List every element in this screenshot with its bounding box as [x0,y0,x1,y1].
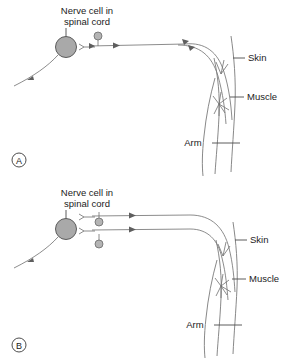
panel-a-vesicle-icon [94,32,102,40]
panel-b-vesicle-icon-2 [95,240,103,248]
panel-a-sensory-axon-main [90,44,185,46]
panel-b-branch-muscle [190,229,228,300]
panel-a-arrowhead-icon-1 [89,43,95,49]
panel-a-arm-outline-left [202,78,215,176]
panel-a-nerve-branch-muscle-lower-icon [214,104,229,116]
panel-b-nerve-cell-label-line2: spinal cord [64,198,110,209]
panel-b-vesicle-icon-1 [95,218,103,226]
panel-b-nerve-cell-label-line1: Nerve cell in [61,187,113,198]
panel-a-skin-label: Skin [248,52,266,63]
panel-b: Nerve cell in spinal cord [12,187,279,358]
panel-b-arrowhead-icon-1 [129,213,136,219]
panel-a-muscle-label: Muscle [247,91,277,102]
panel-a-nerve-branch-muscle-icon [213,92,227,104]
panel-b-nerve-cell-body-icon [56,219,77,240]
panel-b-muscle-label: Muscle [249,273,279,284]
panel-b-arm-outline-left [204,260,217,358]
panel-a-arrowhead-icon-2 [113,43,120,49]
panel-a-nerve-cell-body-icon [56,37,77,58]
panel-b-axon [14,237,58,268]
panel-a-arm-label: Arm [184,137,202,148]
panel-b-skin-label: Skin [250,234,268,245]
panel-a-arm-outline-mid [214,58,219,174]
panel-b-letter: B [16,341,22,351]
panel-a-nerve-cell-label-line2: spinal cord [64,16,110,27]
panel-b-arm-outline-mid [216,240,221,356]
reflex-arc-diagram: Nerve cell in spinal cord [0,0,287,363]
panel-b-arm-outline-right [233,222,237,354]
panel-b-sensory-axon-upper [92,215,190,216]
panel-b-nerve-branch-muscle-icon [215,274,229,286]
panel-a-branch-skin [185,44,232,120]
panel-b-nerve-branch-muscle-lower-icon [216,286,231,298]
panel-a: Nerve cell in spinal cord [12,5,277,176]
panel-b-sensory-axon-lower [92,229,190,230]
panel-a-synapse-terminal-icon [79,44,84,50]
panel-a-arm-outline-right [231,36,235,172]
panel-b-arm-label: Arm [186,319,204,330]
panel-b-synapse-terminal-icon-2 [79,228,84,234]
panel-a-letter: A [16,156,22,166]
panel-a-axon [14,55,58,86]
panel-b-arrowhead-icon-2 [129,227,136,233]
panel-b-synapse-terminal-icon-1 [79,214,84,220]
panel-a-nerve-cell-label-line1: Nerve cell in [61,5,113,16]
